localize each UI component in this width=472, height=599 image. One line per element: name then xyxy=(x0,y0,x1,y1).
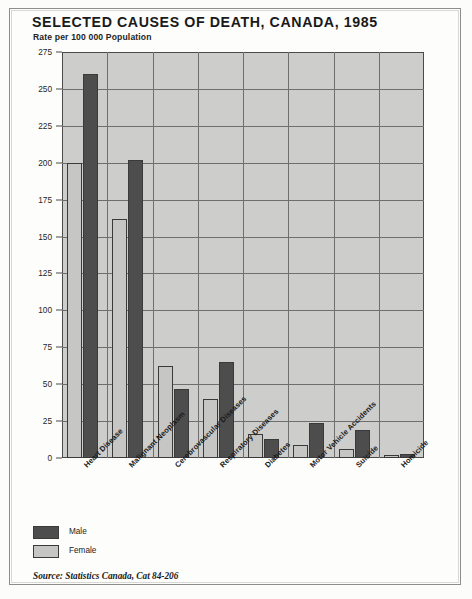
y-axis-tick-label: 150 xyxy=(22,232,52,242)
bar-female xyxy=(67,163,82,458)
y-axis-tick-label: 225 xyxy=(22,121,52,131)
legend-label: Male xyxy=(69,527,87,536)
y-tick-mark xyxy=(56,236,62,237)
bar-male xyxy=(128,160,143,458)
y-axis-tick-label: 75 xyxy=(22,342,52,352)
bar-female xyxy=(112,219,127,458)
legend-swatch xyxy=(33,526,59,539)
page-title: SELECTED CAUSES OF DEATH, CANADA, 1985 xyxy=(32,14,378,30)
y-tick-mark xyxy=(56,458,62,459)
y-tick-mark xyxy=(56,52,62,53)
bar-female xyxy=(339,449,354,458)
gridline-vertical xyxy=(379,52,380,458)
y-tick-mark xyxy=(56,384,62,385)
plot-wrapper: 0255075100125150175200225250275 Heart Di… xyxy=(62,52,424,458)
y-axis-tick-label: 175 xyxy=(22,195,52,205)
bar-female xyxy=(293,445,308,458)
y-axis-tick-label: 25 xyxy=(22,416,52,426)
bar-male xyxy=(83,74,98,458)
y-axis-tick-label: 0 xyxy=(22,453,52,463)
y-axis-tick-label: 275 xyxy=(22,47,52,57)
gridline-vertical xyxy=(198,52,199,458)
legend-label: Female xyxy=(69,546,96,555)
legend-swatch xyxy=(33,545,59,558)
chart-subtitle: Rate per 100 000 Population xyxy=(33,32,152,42)
gridline-vertical xyxy=(288,52,289,458)
gridline-vertical xyxy=(107,52,108,458)
gridline-vertical xyxy=(334,52,335,458)
y-tick-mark xyxy=(56,88,62,89)
gridline-vertical xyxy=(153,52,154,458)
source-note: Source: Statistics Canada, Cat 84-206 xyxy=(33,571,178,581)
y-axis-tick-label: 250 xyxy=(22,84,52,94)
y-tick-mark xyxy=(56,273,62,274)
y-axis-tick-label: 200 xyxy=(22,158,52,168)
bar-female xyxy=(384,455,399,458)
y-tick-mark xyxy=(56,421,62,422)
y-axis-tick-label: 50 xyxy=(22,379,52,389)
bar-female xyxy=(158,366,173,458)
y-tick-mark xyxy=(56,310,62,311)
y-axis-tick-label: 125 xyxy=(22,268,52,278)
y-tick-mark xyxy=(56,162,62,163)
y-axis-tick-label: 100 xyxy=(22,305,52,315)
y-tick-mark xyxy=(56,199,62,200)
y-tick-mark xyxy=(56,125,62,126)
chart-page: SELECTED CAUSES OF DEATH, CANADA, 1985 R… xyxy=(0,0,472,599)
y-tick-mark xyxy=(56,347,62,348)
